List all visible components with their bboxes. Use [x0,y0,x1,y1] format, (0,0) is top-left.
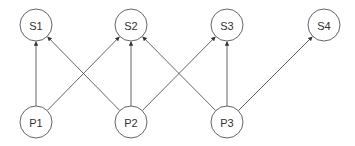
node-label: S2 [124,20,137,32]
edge-p3-to-s4 [238,37,312,111]
nodes-layer: S1S2S3S4P1P2P3 [20,9,340,138]
edges-layer [36,37,312,111]
node-s4: S4 [308,9,340,41]
bipartite-diagram: S1S2S3S4P1P2P3 [0,0,355,146]
node-label: S1 [29,20,42,32]
node-s1: S1 [20,9,52,41]
node-p3: P3 [211,106,243,138]
node-label: S4 [317,20,330,32]
node-s2: S2 [115,9,147,41]
node-label: P1 [29,117,42,129]
node-s3: S3 [211,9,243,41]
node-p2: P2 [115,106,147,138]
node-label: S3 [220,20,233,32]
node-label: P2 [124,117,137,129]
node-label: P3 [220,117,233,129]
node-p1: P1 [20,106,52,138]
